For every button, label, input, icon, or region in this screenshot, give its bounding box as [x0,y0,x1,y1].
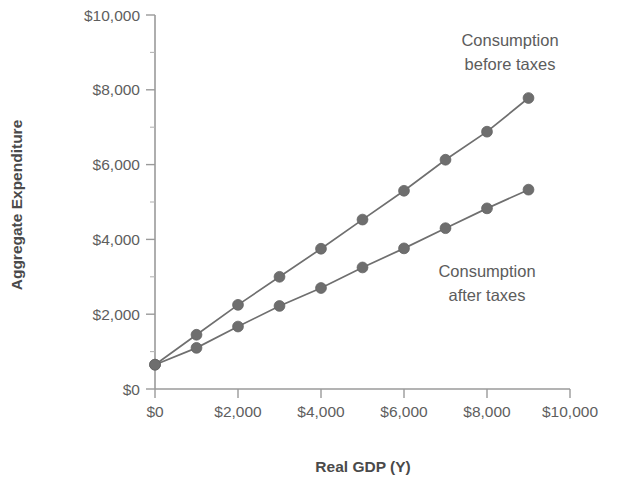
data-point-marker [150,359,161,370]
data-point-marker [482,203,493,214]
data-point-marker [440,154,451,165]
y-tick-label: $0 [123,381,141,398]
x-tick-label: $8,000 [463,403,511,420]
data-point-marker [440,223,451,234]
data-point-marker [316,243,327,254]
data-point-marker [523,93,534,104]
data-point-marker [274,271,285,282]
x-tick-label: $2,000 [214,403,262,420]
y-tick-label: $6,000 [93,156,141,173]
data-point-marker [233,321,244,332]
x-axis-title: Real GDP (Y) [315,458,410,475]
data-point-marker [274,301,285,312]
y-tick-label: $4,000 [93,231,141,248]
data-point-marker [191,329,202,340]
data-point-marker [399,243,410,254]
data-point-marker [523,184,534,195]
y-axis-title: Aggregate Expenditure [8,119,25,290]
data-point-marker [399,185,410,196]
data-point-marker [316,283,327,294]
data-point-marker [482,126,493,137]
annotation-after-taxes-line2: after taxes [448,286,525,304]
data-point-marker [357,262,368,273]
data-point-marker [233,299,244,310]
annotation-before-taxes-line1: Consumption [461,31,558,49]
annotation-after-taxes-line1: Consumption [438,262,535,280]
data-point-marker [191,342,202,353]
x-tick-label: $0 [146,403,164,420]
chart-container: $0$2,000$4,000$6,000$8,000$10,000 $0$2,0… [0,0,627,491]
x-tick-label: $4,000 [297,403,345,420]
y-tick-label: $8,000 [93,81,141,98]
y-tick-label: $2,000 [93,306,141,323]
y-tick-label: $10,000 [84,7,140,24]
annotation-before-taxes-line2: before taxes [465,55,556,73]
data-point-marker [357,214,368,225]
x-tick-label: $6,000 [380,403,428,420]
x-tick-label: $10,000 [542,403,598,420]
aggregate-expenditure-line-chart: $0$2,000$4,000$6,000$8,000$10,000 $0$2,0… [0,0,627,491]
